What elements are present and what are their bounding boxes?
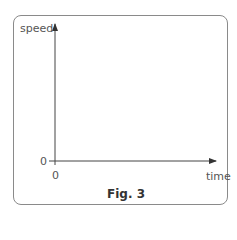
figure-caption: Fig. 3 [107, 188, 145, 200]
x-origin-label: 0 [52, 170, 59, 181]
x-axis-label: time [206, 171, 231, 182]
y-axis-label: speed [20, 23, 53, 34]
y-origin-label: 0 [40, 156, 47, 167]
